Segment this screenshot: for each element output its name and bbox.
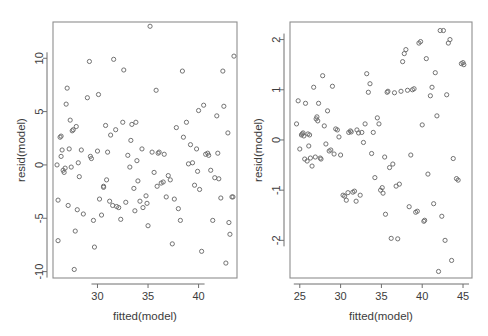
data-point xyxy=(387,165,391,169)
data-point xyxy=(371,130,375,134)
data-point xyxy=(186,162,190,166)
data-point xyxy=(60,148,64,152)
data-point xyxy=(122,68,126,72)
data-point xyxy=(130,122,134,126)
data-point xyxy=(227,220,231,224)
data-point xyxy=(202,103,206,107)
data-point xyxy=(361,140,365,144)
data-point xyxy=(389,236,393,240)
data-point xyxy=(396,237,400,241)
data-point xyxy=(136,179,140,183)
scatter-panel-left: 303540-10-50510fitted(model)resid(model) xyxy=(0,0,244,336)
data-point xyxy=(59,154,63,158)
data-point xyxy=(451,156,455,160)
data-point xyxy=(443,238,447,242)
data-point xyxy=(397,182,401,186)
x-tick-label: 40 xyxy=(192,290,204,302)
data-point xyxy=(140,147,144,151)
plot-area-right: 2530354045-2-1012fitted(model)resid(mode… xyxy=(244,0,488,336)
data-point xyxy=(87,59,91,63)
data-point xyxy=(170,242,174,246)
x-tick-label: 35 xyxy=(375,290,387,302)
x-tick-label: 40 xyxy=(416,290,428,302)
data-point xyxy=(294,122,298,126)
data-point xyxy=(111,203,115,207)
data-point xyxy=(404,48,408,52)
data-point xyxy=(363,122,367,126)
data-point xyxy=(401,60,405,64)
data-point xyxy=(180,69,184,73)
y-axis-title: resid(model) xyxy=(252,118,264,182)
data-point xyxy=(211,218,215,222)
data-point xyxy=(424,57,428,61)
data-point xyxy=(129,138,133,142)
data-point xyxy=(76,161,80,165)
data-point xyxy=(162,152,166,156)
data-point xyxy=(164,195,168,199)
data-point xyxy=(310,164,314,168)
data-point xyxy=(74,124,78,128)
data-point xyxy=(430,85,434,89)
data-point xyxy=(330,84,334,88)
data-point xyxy=(450,258,454,262)
data-point xyxy=(168,178,172,182)
data-point xyxy=(217,177,221,181)
data-point xyxy=(436,269,440,273)
data-point xyxy=(55,163,59,167)
data-point xyxy=(144,194,148,198)
data-point xyxy=(440,214,444,218)
data-point xyxy=(188,143,192,147)
data-point xyxy=(322,124,326,128)
data-point xyxy=(73,229,77,233)
data-point xyxy=(375,116,379,120)
figure-canvas: 303540-10-50510fitted(model)resid(model)… xyxy=(0,0,488,336)
data-point xyxy=(445,93,449,97)
y-tick-label: 5 xyxy=(33,109,45,115)
data-point xyxy=(77,175,81,179)
data-point xyxy=(65,86,69,90)
data-point xyxy=(321,74,325,78)
data-point xyxy=(346,191,350,195)
y-tick-label: -5 xyxy=(33,213,45,223)
data-point xyxy=(72,267,76,271)
data-point xyxy=(190,161,194,165)
data-point xyxy=(448,37,452,41)
data-point xyxy=(399,89,403,93)
plot-frame xyxy=(290,22,472,278)
data-point xyxy=(69,165,73,169)
data-point xyxy=(313,155,317,159)
data-point xyxy=(298,147,302,151)
data-point xyxy=(166,174,170,178)
x-tick-label: 35 xyxy=(142,290,154,302)
data-point xyxy=(365,72,369,76)
data-point xyxy=(174,126,178,130)
data-point xyxy=(133,209,137,213)
data-point xyxy=(91,218,95,222)
x-tick-label: 30 xyxy=(334,290,346,302)
x-tick-label: 25 xyxy=(294,290,306,302)
data-point xyxy=(324,142,328,146)
data-point xyxy=(85,96,89,100)
data-point xyxy=(119,217,123,221)
data-point xyxy=(316,101,320,105)
data-point xyxy=(213,176,217,180)
data-point xyxy=(104,178,108,182)
data-point xyxy=(200,249,204,253)
data-point xyxy=(128,165,132,169)
data-point xyxy=(216,151,220,155)
y-tick-label: -10 xyxy=(33,264,45,280)
data-point xyxy=(112,57,116,61)
data-point xyxy=(377,122,381,126)
data-point xyxy=(195,169,199,173)
data-point xyxy=(232,54,236,58)
data-point xyxy=(145,201,149,205)
data-point xyxy=(124,200,128,204)
data-point xyxy=(215,114,219,118)
data-point xyxy=(392,91,396,95)
data-point xyxy=(366,90,370,94)
data-point xyxy=(420,123,424,127)
data-point xyxy=(358,193,362,197)
y-tick-label: 2 xyxy=(270,37,282,43)
data-point xyxy=(114,128,118,132)
x-tick-label: 30 xyxy=(91,290,103,302)
